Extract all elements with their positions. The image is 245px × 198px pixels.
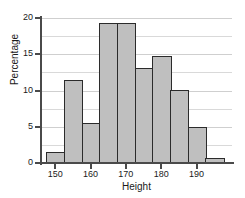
y-tick-label: 0 (15, 158, 33, 167)
histogram-bar (82, 123, 101, 163)
x-tick-label: 180 (148, 170, 174, 179)
plot-area (41, 18, 232, 163)
histogram-bar (117, 23, 136, 163)
y-axis-title: Percentage (9, 20, 20, 100)
x-tick-label: 190 (184, 170, 210, 179)
gridline-major (41, 18, 232, 19)
gridline-minor (41, 36, 232, 37)
x-axis-line (40, 162, 234, 164)
y-tick-mark (35, 17, 40, 19)
histogram-bar (99, 23, 118, 163)
histogram-chart: 05101520 150160170180190 Height Percenta… (0, 0, 245, 198)
y-tick-mark (35, 53, 40, 55)
y-tick-mark (35, 126, 40, 128)
y-tick-mark (35, 162, 40, 164)
gridline-major (41, 54, 232, 55)
histogram-bar (152, 56, 171, 163)
x-tick-label: 160 (78, 170, 104, 179)
x-tick-label: 170 (113, 170, 139, 179)
histogram-bar (170, 90, 189, 163)
x-tick-label: 150 (42, 170, 68, 179)
x-axis-title: Height (41, 181, 232, 192)
histogram-bar (135, 68, 154, 163)
y-tick-mark (35, 90, 40, 92)
y-tick-label: 5 (15, 122, 33, 131)
histogram-bar (64, 80, 83, 163)
histogram-bar (188, 127, 207, 163)
y-axis-line (40, 16, 42, 165)
